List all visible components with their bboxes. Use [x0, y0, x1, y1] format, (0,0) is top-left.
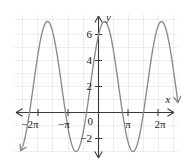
y-tick-label-2: 2	[87, 80, 93, 92]
origin-label-0: 0	[88, 115, 94, 127]
y-axis-name-label: y	[105, 11, 111, 23]
y-tick-label-4: 4	[87, 54, 93, 66]
x-tick-label-2pi: 2π	[154, 118, 166, 130]
figure-background	[0, 0, 191, 166]
y-tick-label-neg-2: −2	[80, 132, 92, 144]
x-axis-name-label: x	[165, 93, 171, 105]
y-tick-label-6: 6	[87, 28, 93, 40]
x-tick-label-neg-pi: −π	[58, 118, 70, 130]
x-tick-label-neg-2pi: −2π	[21, 118, 39, 130]
trig-graph-figure: −2π −π π 2π 6 4 2 0 −2 y x	[0, 0, 191, 166]
graph-canvas: −2π −π π 2π 6 4 2 0 −2 y x	[0, 0, 191, 166]
x-tick-label-pi: π	[125, 118, 131, 130]
